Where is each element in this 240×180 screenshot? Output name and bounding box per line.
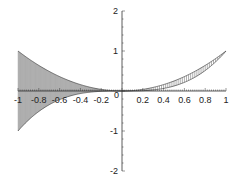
x-tick-label: -0.2 <box>93 95 109 105</box>
plot-area: -1-0.8-0.6-0.4-0.20.20.40.60.8121-1-20 <box>0 0 240 180</box>
x-tick-label: 0.4 <box>157 95 170 105</box>
y-tick-label: 2 <box>113 6 118 16</box>
x-tick-label: 0.8 <box>199 95 212 105</box>
y-tick-label: -1 <box>110 126 118 136</box>
x-tick-label: -1 <box>14 95 22 105</box>
x-tick-label: 0.2 <box>137 95 150 105</box>
y-tick-label: -2 <box>110 166 118 176</box>
origin-label: 0 <box>114 90 119 100</box>
axes <box>18 11 226 171</box>
x-tick-label: -0.4 <box>73 95 89 105</box>
x-tick-label: 1 <box>223 95 228 105</box>
x-tick-label: 0.6 <box>178 95 191 105</box>
y-tick-label: 1 <box>113 46 118 56</box>
x-tick-label: -0.8 <box>31 95 47 105</box>
x-tick-label: -0.6 <box>52 95 68 105</box>
